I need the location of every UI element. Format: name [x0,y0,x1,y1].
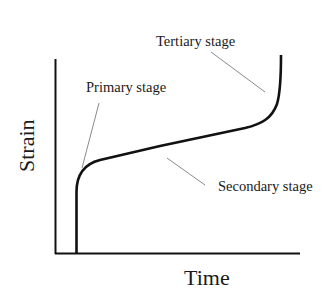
tertiary-leader-line [211,52,265,92]
x-axis-title: Time [184,267,230,289]
primary-leader-line [82,103,99,168]
primary-stage-label: Primary stage [86,80,166,95]
secondary-stage-label: Secondary stage [218,179,313,194]
tertiary-stage-label: Tertiary stage [156,34,235,49]
y-axis-title: Strain [16,119,38,172]
secondary-leader-line [167,158,205,185]
